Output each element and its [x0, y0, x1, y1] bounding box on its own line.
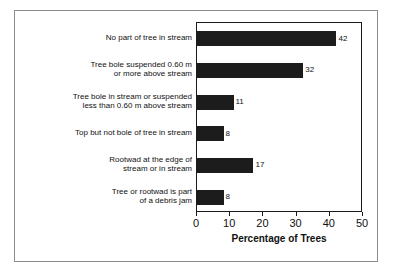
- bar-value-label: 8: [226, 193, 230, 201]
- x-tick-mark: [262, 212, 263, 216]
- x-tick-mark: [362, 212, 363, 216]
- bar-row: 8: [197, 118, 361, 150]
- bar: 11: [197, 95, 234, 110]
- category-label: No part of tree in stream: [6, 22, 196, 54]
- category-label-text: Rootwad at the edge ofstream or in strea…: [10, 155, 196, 174]
- category-label-text: Tree bole suspended 0.60 mor more above …: [10, 60, 196, 79]
- category-label-text: Tree bole in stream or suspendedless tha…: [10, 92, 196, 111]
- category-axis-labels: No part of tree in streamTree bole suspe…: [6, 22, 196, 212]
- category-label: Rootwad at the edge ofstream or in strea…: [6, 149, 196, 181]
- bar-value-label: 8: [226, 130, 230, 138]
- chart-figure: No part of tree in streamTree bole suspe…: [0, 0, 395, 280]
- plot-area: 4232118178: [196, 22, 362, 212]
- bar-value-label: 17: [255, 161, 264, 169]
- category-label-text: Top but not bole of tree in stream: [10, 128, 196, 138]
- x-tick-label: 0: [193, 217, 199, 229]
- x-tick-mark: [296, 212, 297, 216]
- x-tick-mark: [229, 212, 230, 216]
- x-tick-label: 30: [289, 217, 301, 229]
- bars-container: 4232118178: [197, 23, 361, 211]
- bar: 32: [197, 63, 303, 78]
- category-label: Top but not bole of tree in stream: [6, 117, 196, 149]
- x-tick-label: 50: [356, 217, 368, 229]
- x-axis-title: Percentage of Trees: [196, 233, 362, 244]
- bar-row: 11: [197, 86, 361, 118]
- bar-value-label: 42: [338, 35, 347, 43]
- bar: 42: [197, 31, 336, 46]
- bar-row: 8: [197, 181, 361, 213]
- x-tick-label: 10: [223, 217, 235, 229]
- bar: 8: [197, 190, 224, 205]
- category-label: Tree bole suspended 0.60 mor more above …: [6, 54, 196, 86]
- category-label-text: No part of tree in stream: [10, 33, 196, 43]
- bar: 17: [197, 158, 253, 173]
- bar-row: 42: [197, 23, 361, 55]
- bar: 8: [197, 126, 224, 141]
- x-tick-mark: [196, 212, 197, 216]
- x-axis: 01020304050: [196, 212, 362, 234]
- x-tick-label: 20: [256, 217, 268, 229]
- bar-value-label: 11: [236, 98, 244, 106]
- x-tick-mark: [329, 212, 330, 216]
- category-label: Tree or rootwad is partof a debris jam: [6, 180, 196, 212]
- bar-row: 32: [197, 55, 361, 87]
- category-label: Tree bole in stream or suspendedless tha…: [6, 85, 196, 117]
- bar-row: 17: [197, 150, 361, 182]
- bar-value-label: 32: [305, 66, 314, 74]
- category-label-text: Tree or rootwad is partof a debris jam: [10, 187, 196, 206]
- x-tick-label: 40: [323, 217, 335, 229]
